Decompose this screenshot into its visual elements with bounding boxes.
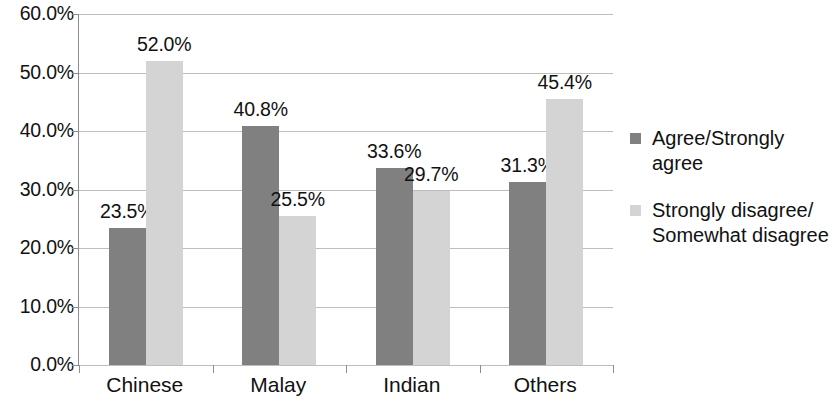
bar-value-label: 52.0% (137, 35, 191, 55)
bar (413, 191, 450, 365)
bar-chart: 0.0%10.0%20.0%30.0%40.0%50.0%60.0% 23.5%… (0, 0, 833, 408)
legend-entry: Strongly disagree/ Somewhat disagree (630, 198, 833, 248)
plot-area: 23.5%52.0%40.8%25.5%33.6%29.7%31.3%45.4% (78, 14, 613, 366)
x-axis-tick-mark (480, 365, 481, 373)
x-axis-tick-mark (346, 365, 347, 373)
x-axis-tick-mark (213, 365, 214, 373)
bar (509, 182, 546, 365)
y-axis-tick-mark (72, 190, 79, 191)
bar-value-label: 29.7% (404, 165, 458, 185)
legend-swatch-dark-icon (630, 133, 641, 144)
bar (376, 168, 413, 365)
bar-value-label: 33.6% (367, 142, 421, 162)
bar-value-label: 40.8% (234, 100, 288, 120)
bar-value-label: 45.4% (538, 73, 592, 93)
bar (546, 99, 583, 365)
legend-entry: Agree/Strongly agree (630, 126, 833, 176)
legend-label: Agree/Strongly agree (652, 126, 832, 176)
bar (242, 126, 279, 365)
bar (109, 228, 146, 365)
x-axis-tick-mark (79, 365, 80, 373)
bar (146, 61, 183, 365)
y-axis-tick-label: 40.0% (0, 121, 74, 141)
y-axis-tick-mark (72, 307, 79, 308)
gridline (79, 14, 613, 15)
y-axis-tick-label: 50.0% (0, 63, 74, 83)
legend-swatch-light-icon (630, 205, 641, 216)
y-axis-tick-mark (72, 365, 79, 366)
y-axis-tick-mark (72, 248, 79, 249)
y-axis-tick-label: 10.0% (0, 297, 74, 317)
y-axis-tick-label: 30.0% (0, 180, 74, 200)
y-axis-tick-label: 60.0% (0, 4, 74, 24)
x-axis-category-label: Chinese (106, 374, 183, 395)
x-axis-category-label: Malay (250, 374, 306, 395)
y-axis-tick-label: 20.0% (0, 238, 74, 258)
x-axis-category-label: Others (514, 374, 577, 395)
bar (279, 216, 316, 365)
y-axis-tick-mark (72, 73, 79, 74)
x-axis-category-label: Indian (383, 374, 440, 395)
y-axis-tick-mark (72, 14, 79, 15)
x-axis-tick-mark (613, 365, 614, 373)
y-axis-tick-labels: 0.0%10.0%20.0%30.0%40.0%50.0%60.0% (0, 0, 74, 408)
y-axis-tick-mark (72, 131, 79, 132)
legend-label: Strongly disagree/ Somewhat disagree (652, 198, 832, 248)
bar-value-label: 25.5% (271, 190, 325, 210)
chart-legend: Agree/Strongly agreeStrongly disagree/ S… (630, 126, 833, 270)
y-axis-tick-label: 0.0% (0, 355, 74, 375)
